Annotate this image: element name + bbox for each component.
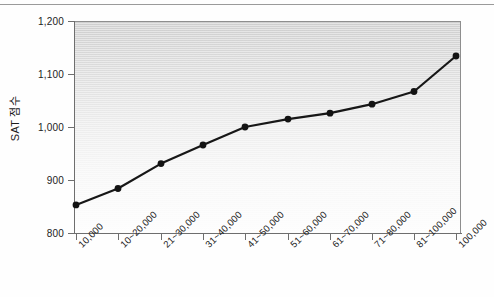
data-point-3 — [200, 142, 207, 149]
series-layer — [0, 0, 494, 297]
data-point-2 — [158, 160, 165, 167]
data-point-5 — [285, 116, 292, 123]
data-point-9 — [453, 53, 460, 60]
series-line-sat — [76, 56, 456, 205]
data-point-7 — [369, 101, 376, 108]
data-point-0 — [73, 202, 80, 209]
data-point-8 — [411, 88, 418, 95]
data-point-4 — [242, 124, 249, 131]
data-point-1 — [115, 185, 122, 192]
chart-page: SAT 점수 800 900 1,000 1,100 1,200 10,000 … — [0, 0, 494, 297]
series-markers — [73, 53, 460, 209]
data-point-6 — [327, 110, 334, 117]
line-chart: SAT 점수 800 900 1,000 1,100 1,200 10,000 … — [0, 0, 494, 297]
